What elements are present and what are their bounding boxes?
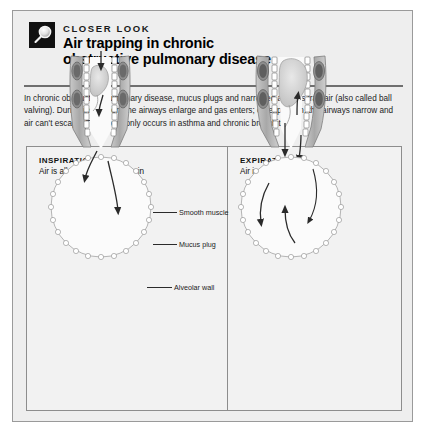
airway-epithelium-left-exp <box>272 57 279 136</box>
alveolus-inspiration <box>48 151 153 260</box>
leader-line-smooth-muscle <box>153 212 177 213</box>
leader-line-alveolar-wall <box>147 287 172 288</box>
leader-line-mucus-plug <box>153 244 177 245</box>
airway-epithelium-right <box>111 57 117 136</box>
callout-mucus-plug: Mucus plug <box>179 240 216 249</box>
content-frame: CLOSER LOOK Air trapping in chronic obst… <box>12 10 413 422</box>
anatomy-illustration <box>13 11 414 423</box>
expiration-diagram <box>238 56 343 260</box>
callout-alveolar-wall: Alveolar wall <box>174 283 214 292</box>
page-canvas: CLOSER LOOK Air trapping in chronic obst… <box>0 0 427 435</box>
callout-smooth-muscle: Smooth muscle <box>179 208 229 217</box>
alveolus-expiration <box>238 154 343 259</box>
inspiration-diagram <box>48 51 153 260</box>
airway-epithelium-left <box>84 57 90 136</box>
